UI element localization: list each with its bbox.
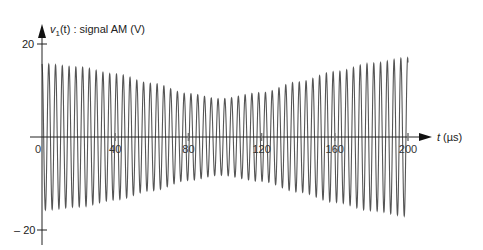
y-axis-label: v1(t) : signal AM (V) — [50, 23, 145, 38]
x-axis-label: t (µs) — [437, 131, 462, 143]
y-tick-label-neg20: – 20 — [14, 224, 35, 236]
x-tick-label: 120 — [252, 143, 270, 155]
x-tick-label: 200 — [399, 143, 417, 155]
y-axis-arrow-icon — [38, 24, 46, 38]
x-tick-label: 40 — [109, 143, 121, 155]
x-tick-label: 160 — [326, 143, 344, 155]
am-signal-chart: 20 – 20 04080120160200 v1(t) : signal AM… — [0, 0, 483, 250]
x-tick-label: 80 — [182, 143, 194, 155]
y-tick-label-20: 20 — [22, 38, 34, 50]
x-tick-label: 0 — [35, 143, 41, 155]
x-axis-arrow-icon — [419, 133, 432, 141]
